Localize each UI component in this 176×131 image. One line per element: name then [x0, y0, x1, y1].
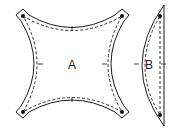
- piece-b-label: B: [145, 58, 153, 72]
- piece-a-label: A: [68, 58, 76, 72]
- corner-dot: [21, 110, 25, 114]
- corner-dot: [21, 14, 25, 18]
- corner-dot: [120, 14, 124, 18]
- piece-b: B: [134, 5, 166, 126]
- corner-dot: [158, 113, 162, 117]
- quilt-template-diagram: A B: [0, 0, 176, 131]
- piece-a: A: [16, 9, 129, 118]
- corner-dot: [158, 14, 162, 18]
- corner-dot: [120, 110, 124, 114]
